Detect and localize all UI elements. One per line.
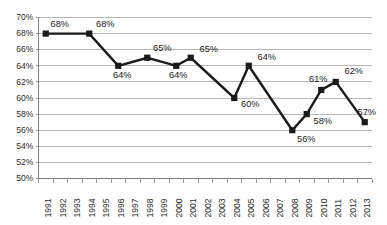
data-point-marker	[173, 63, 179, 69]
y-tick-label: 62%	[16, 77, 34, 87]
data-point-label: 57%	[358, 107, 376, 117]
data-point-label: 64%	[113, 70, 131, 80]
y-tick-label: 50%	[16, 173, 34, 183]
y-tick-label: 56%	[16, 125, 34, 135]
x-tick-label: 2003	[217, 198, 227, 217]
x-tick-label: 2004	[232, 198, 242, 217]
line-chart: 70%68%66%64%62%60%58%56%54%52%50% 199119…	[0, 0, 387, 225]
x-tick-labels-group: 1991199219931994199519961997199819992000…	[43, 198, 372, 217]
data-point-marker	[144, 55, 150, 61]
x-tick-label: 2008	[290, 198, 300, 217]
gridlines-group	[39, 18, 373, 179]
x-tick-label: 2007	[275, 198, 285, 217]
x-tickmarks-group	[39, 179, 373, 183]
y-tick-label: 58%	[16, 109, 34, 119]
y-tick-label: 64%	[16, 61, 34, 71]
data-point-label: 58%	[314, 116, 332, 126]
data-point-label: 65%	[200, 44, 218, 54]
y-tick-label: 52%	[16, 157, 34, 167]
y-tick-labels-group: 70%68%66%64%62%60%58%56%54%52%50%	[16, 12, 34, 183]
data-labels-group: 68%68%64%65%64%65%60%64%56%58%61%62%57%	[51, 19, 376, 144]
x-tick-label: 2013	[362, 198, 372, 217]
x-tick-label: 1997	[130, 198, 140, 217]
data-point-label: 68%	[96, 19, 114, 29]
data-point-label: 64%	[169, 70, 187, 80]
x-tick-label: 1992	[58, 198, 68, 217]
data-point-marker	[86, 31, 92, 37]
data-point-marker	[362, 119, 368, 125]
data-point-marker	[115, 63, 121, 69]
x-tick-label: 1993	[72, 198, 82, 217]
x-tick-label: 1994	[87, 198, 97, 217]
x-tick-label: 2002	[203, 198, 213, 217]
x-tick-label: 2009	[304, 198, 314, 217]
x-tick-label: 1991	[43, 198, 53, 217]
data-point-marker	[43, 31, 49, 37]
data-point-marker	[231, 95, 237, 101]
data-point-label: 61%	[309, 74, 327, 84]
data-point-marker	[246, 63, 252, 69]
data-point-label: 68%	[51, 19, 69, 29]
y-tick-label: 66%	[16, 44, 34, 54]
x-tick-label: 1998	[145, 198, 155, 217]
data-point-label: 60%	[241, 99, 259, 109]
x-tick-label: 2006	[261, 198, 271, 217]
y-tick-label: 70%	[16, 12, 34, 22]
x-tick-label: 2011	[333, 199, 343, 218]
data-point-marker	[318, 87, 324, 93]
data-point-marker	[289, 127, 295, 133]
x-tick-label: 2010	[319, 198, 329, 217]
x-tick-label: 2000	[174, 198, 184, 217]
x-tick-label: 1996	[116, 198, 126, 217]
data-point-label: 62%	[345, 66, 363, 76]
y-tick-label: 68%	[16, 28, 34, 38]
y-tick-label: 54%	[16, 141, 34, 151]
data-point-marker	[304, 111, 310, 117]
data-point-marker	[333, 79, 339, 85]
x-tick-label: 2001	[188, 198, 198, 217]
data-point-label: 64%	[258, 52, 276, 62]
x-tick-label: 1999	[159, 198, 169, 217]
data-point-marker	[188, 55, 194, 61]
data-point-label: 56%	[297, 134, 315, 144]
y-tick-label: 60%	[16, 93, 34, 103]
x-tick-label: 2005	[246, 198, 256, 217]
x-tick-label: 2012	[348, 198, 358, 217]
chart-canvas: 70%68%66%64%62%60%58%56%54%52%50% 199119…	[0, 0, 387, 225]
x-tick-label: 1995	[101, 198, 111, 217]
data-point-label: 65%	[153, 43, 171, 53]
